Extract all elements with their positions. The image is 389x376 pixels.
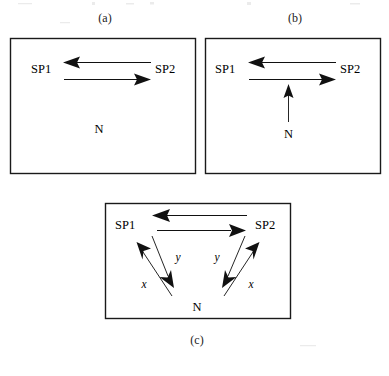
panel-c-edge-label-x-left: x: [140, 278, 147, 290]
panel-a-node-sp1: SP1: [31, 62, 51, 76]
panel-a-node-sp2: SP2: [155, 62, 175, 76]
panel-b-node-sp2: SP2: [340, 62, 360, 76]
panel-c-node-sp2: SP2: [255, 218, 275, 232]
panel-a-node-n: N: [94, 122, 103, 136]
three-panel-diagram: (a) SP1 SP2 N (b) SP1: [0, 0, 389, 376]
figure-container: (a) SP1 SP2 N (b) SP1: [0, 0, 389, 376]
panel-c-edge-label-x-right: x: [247, 278, 254, 290]
panel-c-node-n: N: [192, 300, 201, 314]
panel-a-caption: (a): [98, 11, 111, 25]
panel-c-edge-label-y-right: y: [213, 251, 220, 264]
panel-c-edge-label-y-left: y: [174, 251, 181, 264]
figure-background: [0, 0, 389, 376]
panel-c-caption: (c): [190, 333, 203, 347]
panel-b-node-n: N: [284, 127, 293, 141]
panel-b-node-sp1: SP1: [215, 62, 235, 76]
panel-c-node-sp1: SP1: [115, 218, 135, 232]
panel-b-caption: (b): [288, 11, 302, 25]
